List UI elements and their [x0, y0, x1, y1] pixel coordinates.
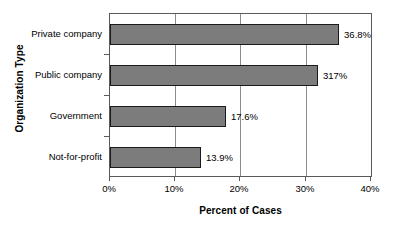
- bar-not-for-profit[interactable]: [110, 147, 201, 168]
- x-tick-mark: [174, 177, 175, 181]
- y-axis-tick-labels: Private company Public company Governmen…: [26, 13, 106, 177]
- bar-value-label: 13.9%: [206, 153, 233, 163]
- x-axis-tick-marks: [109, 177, 372, 182]
- bar-private-company[interactable]: [110, 24, 339, 45]
- x-axis-tick-labels: 0% 10% 20% 30% 40%: [109, 183, 372, 197]
- bar-chart-figure: Organization Type Private company Public…: [0, 0, 402, 232]
- x-tick-label: 30%: [295, 183, 314, 194]
- x-tick-label: 40%: [360, 183, 379, 194]
- bar-value-label: 36.8%: [344, 30, 371, 40]
- x-tick-mark: [305, 177, 306, 181]
- plot-area: 36.8% 317% 17.6% 13.9%: [109, 13, 372, 177]
- y-tick-label: Not-for-profit: [26, 136, 106, 177]
- y-tick-label: Government: [26, 95, 106, 136]
- x-tick-label: 0%: [102, 183, 116, 194]
- x-tick-mark: [109, 177, 110, 181]
- bar-row: 36.8%: [110, 14, 371, 55]
- bar-government[interactable]: [110, 106, 226, 127]
- bar-row: 13.9%: [110, 137, 371, 178]
- bar-row: 17.6%: [110, 96, 371, 137]
- y-tick-label: Private company: [26, 13, 106, 54]
- bar-row: 317%: [110, 55, 371, 96]
- x-tick-label: 20%: [229, 183, 248, 194]
- bar-public-company[interactable]: [110, 65, 318, 86]
- bar-value-label: 317%: [323, 71, 347, 81]
- x-axis-title: Percent of Cases: [109, 205, 372, 216]
- y-axis-title-label: Organization Type: [14, 44, 25, 132]
- bar-value-label: 17.6%: [231, 112, 258, 122]
- y-tick-label: Public company: [26, 54, 106, 95]
- x-tick-label: 10%: [164, 183, 183, 194]
- x-tick-mark: [239, 177, 240, 181]
- x-tick-mark: [370, 177, 371, 181]
- bar-series: 36.8% 317% 17.6% 13.9%: [110, 14, 371, 176]
